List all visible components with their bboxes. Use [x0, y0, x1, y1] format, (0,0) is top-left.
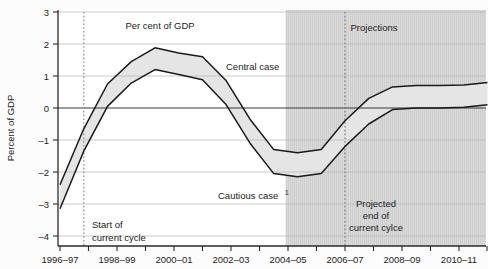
y-axis-title: Percent of GDP [5, 95, 16, 162]
annotation-current-cycle: current cycle [92, 232, 146, 243]
x-tick-label-2002-03: 2002–03 [213, 254, 250, 265]
y-tick-label-1: 1 [44, 71, 49, 82]
y-tick-label-neg1: –1 [38, 135, 49, 146]
x-tick-label-1998-99: 1998–99 [99, 254, 136, 265]
y-tick-marks [53, 12, 58, 236]
y-tick-label-neg3: –3 [38, 199, 49, 210]
x-tick-label-2006-07: 2006–07 [327, 254, 364, 265]
x-tick-label-2004-05: 2004–05 [270, 254, 307, 265]
y-tick-label-neg2: –2 [38, 167, 49, 178]
annotation-cautious-case-footnote: 1 [285, 189, 289, 196]
annotation-start-of: Start of [92, 219, 123, 230]
annotation-per-cent-of-gdp: Per cent of GDP [125, 20, 194, 31]
y-tick-label-3: 3 [44, 7, 49, 18]
gdp-projection-chart: 3 2 1 0 –1 –2 –3 –4 1996–97 19 [0, 0, 488, 269]
annotation-end-of: end of [363, 210, 390, 221]
annotation-projections: Projections [351, 22, 398, 33]
y-tick-label-2: 2 [44, 39, 49, 50]
annotation-current-cylce: current cylce [349, 222, 403, 233]
annotation-cautious-case: Cautious case [218, 190, 278, 201]
annotation-central-case: Central case [226, 61, 279, 72]
x-tick-label-2008-09: 2008–09 [384, 254, 421, 265]
x-tick-label-2010-11: 2010–11 [441, 254, 477, 265]
annotation-projected: Projected [356, 198, 396, 209]
x-tick-label-1996-97: 1996–97 [42, 254, 79, 265]
y-tick-label-0: 0 [44, 103, 49, 114]
x-tick-label-2000-01: 2000–01 [156, 254, 193, 265]
x-tick-marks [60, 246, 487, 251]
y-tick-label-neg4: –4 [38, 231, 49, 242]
chart-figure: 3 2 1 0 –1 –2 –3 –4 1996–97 19 [0, 0, 488, 269]
